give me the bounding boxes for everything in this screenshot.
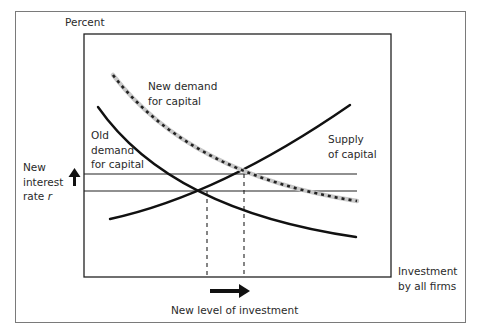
investment-level-label: New level of investment (171, 303, 298, 318)
supply-label-line1: Supply (328, 132, 377, 147)
x-axis-label-line1: Investment (398, 264, 457, 279)
old-demand-label-line3: for capital (91, 157, 144, 172)
interest-rate-label-line1: New (23, 160, 63, 175)
interest-rate-label: New interest rate r (23, 160, 63, 204)
supply-curve (110, 105, 350, 219)
interest-rate-label-line2: interest (23, 175, 63, 190)
old-demand-label-line2: demand (91, 143, 144, 158)
right-arrow-icon (210, 284, 250, 298)
interest-rate-variable: r (48, 190, 52, 202)
old-demand-label: Old demand for capital (91, 128, 144, 172)
up-arrow-icon (69, 168, 81, 186)
supply-label-line2: of capital (328, 147, 377, 162)
new-demand-label: New demand for capital (148, 79, 217, 108)
x-axis-label: Investment by all firms (398, 264, 457, 293)
old-demand-label-line1: Old (91, 128, 144, 143)
x-axis-label-line2: by all firms (398, 279, 457, 294)
new-demand-label-line2: for capital (148, 94, 217, 109)
y-axis-label: Percent (65, 15, 105, 30)
interest-rate-label-line3: rate r (23, 189, 63, 204)
new-demand-label-line1: New demand (148, 79, 217, 94)
supply-label: Supply of capital (328, 132, 377, 161)
interest-rate-prefix: rate (23, 190, 48, 202)
